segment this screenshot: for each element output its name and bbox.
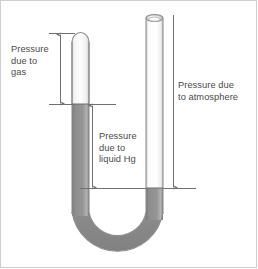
mercury-column-right	[146, 188, 163, 220]
mercury-column-left	[72, 104, 89, 216]
label-pressure-due-to-atmosphere: Pressure due to atmosphere	[178, 80, 254, 103]
right-tube-rim-inner	[149, 17, 160, 21]
label-pressure-due-to-gas: Pressure due to gas	[11, 44, 71, 79]
gas-column	[72, 33, 89, 105]
label-pressure-due-to-liquid-hg: Pressure due to liquid Hg	[99, 131, 163, 166]
